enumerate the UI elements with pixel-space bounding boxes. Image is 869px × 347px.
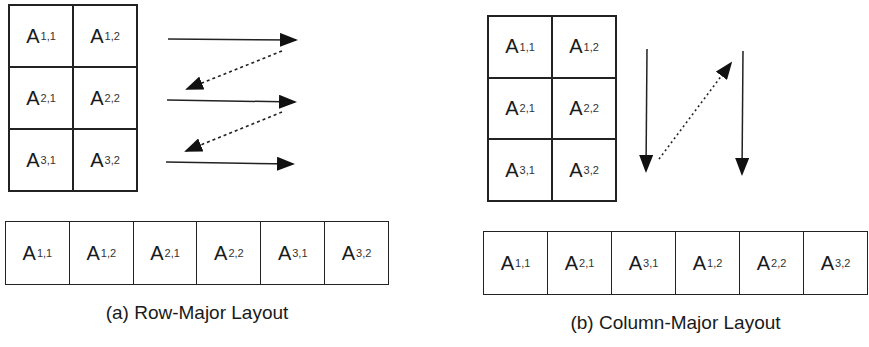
memory-cell: A3,2 (804, 232, 867, 294)
cell-base: A (629, 252, 642, 275)
cell-subscript: 1,2 (707, 257, 722, 269)
row-major-memory-strip: A1,1 A1,2 A2,1 A2,2 A3,1 A3,2 (5, 221, 389, 285)
memory-cell: A1,1 (6, 222, 70, 284)
arrow-return-icon (187, 51, 282, 89)
cell-subscript: 1,1 (37, 247, 52, 259)
cell-base: A (150, 242, 163, 265)
arrow-down-icon (646, 49, 647, 171)
row-major-caption: (a) Row-Major Layout (5, 302, 389, 324)
arrow-return-icon (659, 63, 731, 159)
arrow-down-icon (742, 51, 743, 174)
cell-base: A (757, 252, 770, 275)
column-major-caption: (b) Column-Major Layout (483, 312, 868, 334)
cell-base: A (501, 252, 514, 275)
cell-subscript: 3,1 (292, 247, 307, 259)
arrow-right-icon (166, 162, 293, 164)
cell-base: A (86, 242, 99, 265)
cell-base: A (342, 242, 355, 265)
row-major-arrows (166, 39, 296, 164)
memory-cell: A2,1 (134, 222, 198, 284)
column-major-memory-strip: A1,1 A2,1 A3,1 A1,2 A2,2 A3,2 (483, 231, 868, 295)
arrow-right-icon (167, 100, 295, 102)
cell-subscript: 2,2 (771, 257, 786, 269)
memory-cell: A1,2 (676, 232, 740, 294)
cell-subscript: 1,1 (515, 257, 530, 269)
cell-subscript: 3,2 (356, 247, 371, 259)
arrow-return-icon (186, 112, 282, 151)
memory-cell: A3,1 (261, 222, 325, 284)
cell-subscript: 3,2 (835, 257, 850, 269)
memory-cell: A3,2 (325, 222, 388, 284)
cell-subscript: 2,1 (579, 257, 594, 269)
cell-base: A (821, 252, 834, 275)
memory-cell: A2,1 (548, 232, 612, 294)
cell-base: A (214, 242, 227, 265)
column-major-arrows (646, 49, 743, 174)
cell-subscript: 1,2 (101, 247, 116, 259)
memory-cell: A1,1 (484, 232, 548, 294)
cell-base: A (693, 252, 706, 275)
memory-cell: A1,2 (70, 222, 134, 284)
cell-base: A (278, 242, 291, 265)
cell-subscript: 2,1 (165, 247, 180, 259)
memory-cell: A2,2 (197, 222, 261, 284)
cell-base: A (565, 252, 578, 275)
memory-cell: A3,1 (612, 232, 676, 294)
arrow-right-icon (168, 39, 296, 40)
memory-cell: A2,2 (740, 232, 804, 294)
cell-subscript: 3,1 (643, 257, 658, 269)
cell-base: A (23, 242, 36, 265)
cell-subscript: 2,2 (228, 247, 243, 259)
